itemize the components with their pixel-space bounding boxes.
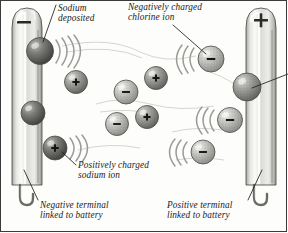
callout-chlorine-ion-line2: chlorine ion <box>128 12 174 22</box>
leader-negative-terminal <box>24 170 38 200</box>
callout-sodium-deposited-line2: deposited <box>58 13 95 23</box>
callout-positive-terminal-line2: linked to battery <box>167 210 230 220</box>
callout-chlorine-ion-line1: Negatively charged <box>128 2 202 12</box>
callout-positive-terminal-line1: Positive terminal <box>167 200 232 210</box>
callout-negative-terminal-line1: Negative terminal <box>40 200 109 210</box>
leader-chlorine-ion <box>173 25 206 54</box>
callout-positive-terminal: Positive terminallinked to battery <box>167 200 232 221</box>
callout-sodium-ion-line1: Positively charged <box>78 160 149 170</box>
electrolysis-diagram: Sodiumdeposited Negatively chargedchlori… <box>0 0 288 233</box>
leader-sodium-ion <box>62 152 76 165</box>
leader-sodium-deposited <box>43 5 56 42</box>
leader-chlorine-discharged <box>252 74 288 88</box>
callout-negative-terminal-line2: linked to battery <box>40 210 103 220</box>
callout-leader-lines <box>0 0 288 233</box>
leader-positive-terminal <box>248 170 262 200</box>
callout-negative-terminal: Negative terminallinked to battery <box>40 200 109 221</box>
callout-sodium-deposited-line1: Sodium <box>58 3 87 13</box>
callout-sodium-ion: Positively chargedsodium ion <box>78 160 149 181</box>
callout-chlorine-ion: Negatively chargedchlorine ion <box>128 2 202 23</box>
callout-sodium-ion-line2: sodium ion <box>78 170 120 180</box>
callout-sodium-deposited: Sodiumdeposited <box>58 3 95 24</box>
